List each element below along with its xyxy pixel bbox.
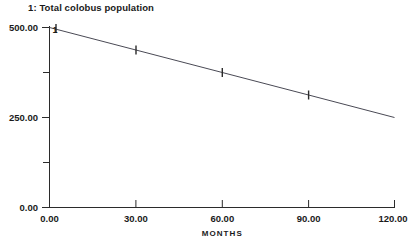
y-tick-label-250: 250.00 xyxy=(9,112,38,123)
x-axis-title: MONTHS xyxy=(202,229,243,238)
x-tick-label-90: 90.00 xyxy=(297,213,321,224)
y-tick-label-500: 500.00 xyxy=(9,22,38,33)
y-tick-label-0: 0.00 xyxy=(20,202,39,213)
x-tick-label-30: 30.00 xyxy=(124,213,148,224)
x-tick-label-0: 0.00 xyxy=(40,213,59,224)
x-tick-label-60: 60.00 xyxy=(210,213,234,224)
series-1-key-label: 1 xyxy=(52,25,57,35)
chart-plot-svg: 500.00 250.00 0.00 0.00 30.00 60.00 90.0… xyxy=(0,0,410,245)
x-tick-label-120: 120.00 xyxy=(378,213,407,224)
chart-container: 1: Total colobus population 500.00 250.0… xyxy=(0,0,410,245)
